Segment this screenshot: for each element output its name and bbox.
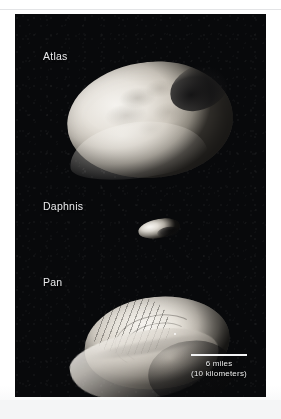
moon-atlas <box>67 62 233 178</box>
scale-bar-line <box>191 354 247 356</box>
scale-bar-kilometers-label: (10 kilometers) <box>180 369 258 379</box>
page-bottom-band <box>0 400 281 419</box>
top-divider-rule <box>0 9 281 10</box>
moon-label-atlas: Atlas <box>43 50 68 62</box>
moon-pan <box>70 297 232 397</box>
page-background: Atlas Daphnis Pan 6 miles (10 kilometers… <box>0 0 281 419</box>
moon-label-pan: Pan <box>43 276 62 288</box>
scale-bar: 6 miles (10 kilometers) <box>180 354 258 379</box>
moon-label-daphnis: Daphnis <box>43 200 83 212</box>
moon-daphnis <box>138 219 180 238</box>
moon-pan-bright-speck <box>174 333 176 335</box>
moons-photo-panel: Atlas Daphnis Pan 6 miles (10 kilometers… <box>15 14 266 397</box>
scale-bar-miles-label: 6 miles <box>180 359 258 369</box>
